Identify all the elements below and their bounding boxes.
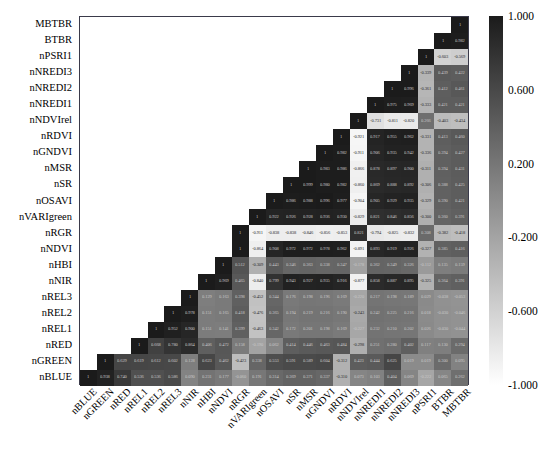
heatmap-empty-cell xyxy=(80,322,97,338)
heatmap-cell-value: 0.878 xyxy=(370,167,380,172)
heatmap-cell: 0.983 xyxy=(316,161,333,177)
heatmap-cell-value: 0.917 xyxy=(370,135,380,140)
heatmap-cell: 0.391 xyxy=(451,274,468,290)
heatmap-empty-cell xyxy=(181,33,198,49)
y-axis-label: nSR xyxy=(0,176,76,192)
heatmap-row: 10.982-0.9110.9060.9350.942-0.3360.3940.… xyxy=(80,145,468,161)
heatmap-cell-value: 0.821 xyxy=(370,215,380,220)
heatmap-cell-value: 0.465 xyxy=(235,279,245,284)
heatmap-empty-cell xyxy=(181,65,198,81)
heatmap-empty-cell xyxy=(148,81,165,97)
heatmap-empty-cell xyxy=(283,129,300,145)
heatmap-cell: 0.905 xyxy=(367,193,384,209)
heatmap-row: 10.9830.986-0.8660.8780.8970.900-0.3110.… xyxy=(80,161,468,177)
heatmap-cell: -0.434 xyxy=(451,113,468,129)
heatmap-cell-value: 0.360 xyxy=(438,215,448,220)
y-axis-label: nHBI xyxy=(0,257,76,273)
heatmap-cell-value: 0.308 xyxy=(421,231,431,236)
heatmap-empty-cell xyxy=(232,193,249,209)
heatmap-row: 10.9520.9000.1510.1410.399-0.4630.3420.1… xyxy=(80,322,468,338)
heatmap-empty-cell xyxy=(384,65,401,81)
y-axis-label: MBTBR xyxy=(0,16,76,32)
heatmap-cell: 0.936 xyxy=(316,209,333,225)
heatmap-cell-value: 0.888 xyxy=(387,183,397,188)
heatmap-empty-cell xyxy=(164,49,181,65)
heatmap-cell: 0.135 xyxy=(434,257,451,273)
heatmap-cell: 0.892 xyxy=(401,177,418,193)
heatmap-empty-cell xyxy=(249,33,266,49)
heatmap-empty-cell xyxy=(181,274,198,290)
heatmap-cell: 0.169 xyxy=(333,290,350,306)
heatmap-empty-cell xyxy=(164,33,181,49)
heatmap-cell: 0.929 xyxy=(384,193,401,209)
heatmap-cell: 0.364 xyxy=(434,274,451,290)
heatmap-cell: -0.220 xyxy=(350,290,367,306)
heatmap-empty-cell xyxy=(198,145,215,161)
heatmap-cell-value: 0.165 xyxy=(219,311,229,316)
heatmap-cell-value: 1 xyxy=(408,71,410,76)
heatmap-cell: 0.780 xyxy=(164,338,181,354)
heatmap-cell: -0.112 xyxy=(418,257,435,273)
heatmap-cell: -0.403 xyxy=(434,113,451,129)
heatmap-cell: 0.919 xyxy=(384,241,401,257)
heatmap-empty-cell xyxy=(215,81,232,97)
heatmap-cell: 0.461 xyxy=(451,81,468,97)
heatmap-empty-cell xyxy=(97,33,114,49)
heatmap-cell-value: 0.394 xyxy=(438,151,448,156)
heatmap-empty-cell xyxy=(198,113,215,129)
heatmap-cell-value: -0.423 xyxy=(235,359,246,364)
heatmap-cell: 0.591 xyxy=(283,354,300,370)
heatmap-empty-cell xyxy=(131,257,148,273)
heatmap-empty-cell xyxy=(131,209,148,225)
heatmap-cell: 0.404 xyxy=(384,370,401,386)
heatmap-cell: -0.030 xyxy=(434,322,451,338)
heatmap-cell-value: 0.625 xyxy=(387,359,397,364)
heatmap-cell: 0.472 xyxy=(215,338,232,354)
heatmap-empty-cell xyxy=(215,161,232,177)
heatmap-cell: 0.446 xyxy=(299,338,316,354)
heatmap-empty-cell xyxy=(283,17,300,33)
heatmap-cell-value: -0.418 xyxy=(454,231,465,236)
heatmap-cell: 0.344 xyxy=(266,290,283,306)
heatmap-empty-cell xyxy=(418,17,435,33)
heatmap-cell: -0.178 xyxy=(350,257,367,273)
heatmap-cell-value: -0.329 xyxy=(420,199,431,204)
heatmap-empty-cell xyxy=(131,129,148,145)
heatmap-cell-value: 0.201 xyxy=(303,327,313,332)
heatmap-cell-value: 0.897 xyxy=(387,167,397,172)
heatmap-empty-cell xyxy=(384,49,401,65)
heatmap-empty-cell xyxy=(97,81,114,97)
heatmap-cell-value: 0.462 xyxy=(219,359,229,364)
heatmap-empty-cell xyxy=(181,193,198,209)
heatmap-cell-value: 0.780 xyxy=(168,343,178,348)
heatmap-empty-cell xyxy=(249,113,266,129)
heatmap-cell-value: 0.169 xyxy=(337,327,347,332)
heatmap-cell: 0.425 xyxy=(451,177,468,193)
heatmap-empty-cell xyxy=(114,17,131,33)
heatmap-cell-value: 0.169 xyxy=(337,295,347,300)
heatmap-empty-cell xyxy=(164,17,181,33)
heatmap-cell: 0.427 xyxy=(451,145,468,161)
heatmap-cell-value: 0.905 xyxy=(370,199,380,204)
heatmap-empty-cell xyxy=(316,17,333,33)
heatmap-cell: 0.962 xyxy=(333,241,350,257)
heatmap-cell: 0.413 xyxy=(434,129,451,145)
heatmap-cell: 0.191 xyxy=(249,370,266,386)
heatmap-row: 1 xyxy=(80,17,468,33)
heatmap-empty-cell xyxy=(114,290,131,306)
heatmap-cell: 1 xyxy=(97,354,114,370)
heatmap-cell: -0.046 xyxy=(451,306,468,322)
heatmap-cell-value: 0.936 xyxy=(320,215,330,220)
heatmap-empty-cell xyxy=(266,97,283,113)
heatmap-cell-value: 0.463 xyxy=(320,343,330,348)
heatmap-empty-cell xyxy=(131,322,148,338)
y-axis-label: nREL1 xyxy=(0,321,76,337)
heatmap-empty-cell xyxy=(148,306,165,322)
heatmap-empty-cell xyxy=(114,65,131,81)
heatmap-cell-value: 0.406 xyxy=(202,343,212,348)
heatmap-empty-cell xyxy=(350,65,367,81)
heatmap-cell-value: 0.231 xyxy=(202,375,212,380)
heatmap-cell: 0.740 xyxy=(114,370,131,386)
heatmap-cell: 1 xyxy=(266,193,283,209)
heatmap-cell-value: 1 xyxy=(256,215,258,220)
